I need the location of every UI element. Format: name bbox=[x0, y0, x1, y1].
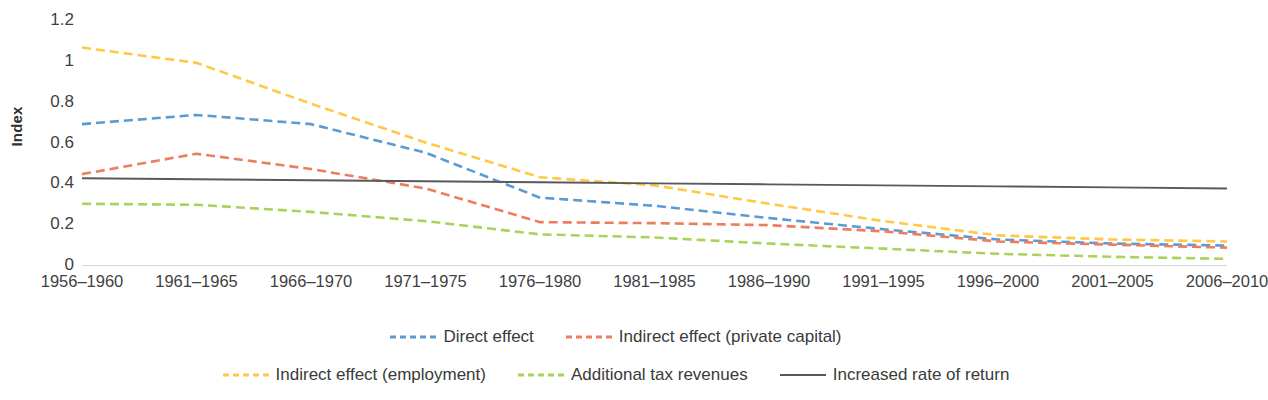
legend-swatch-icon bbox=[780, 369, 826, 381]
x-axis-line bbox=[82, 265, 1227, 266]
y-axis-tick: 0.8 bbox=[0, 92, 74, 112]
x-axis-tick: 2001–2005 bbox=[1071, 272, 1154, 291]
legend-label: Indirect effect (employment) bbox=[276, 365, 486, 385]
x-axis-tick-labels: 1956–19601961–19651966–19701971–19751976… bbox=[82, 272, 1227, 302]
x-axis-tick: 1986–1990 bbox=[728, 272, 811, 291]
y-axis-tick: 0.4 bbox=[0, 173, 74, 193]
x-axis-tick: 1971–1975 bbox=[384, 272, 467, 291]
x-axis-tick: 1966–1970 bbox=[270, 272, 353, 291]
plot-area bbox=[82, 20, 1227, 265]
legend-swatch-icon bbox=[390, 331, 436, 343]
legend-label: Indirect effect (private capital) bbox=[619, 327, 842, 347]
y-axis-tick: 1.2 bbox=[0, 10, 74, 30]
x-axis-tick: 1976–1980 bbox=[499, 272, 582, 291]
legend-item[interactable]: Direct effect bbox=[390, 327, 533, 347]
x-axis-tick: 1981–1985 bbox=[613, 272, 696, 291]
legend-label: Direct effect bbox=[443, 327, 533, 347]
y-axis-tick-labels: 1.210.80.60.40.20 bbox=[0, 0, 74, 280]
chart-legend: Direct effectIndirect effect (private ca… bbox=[0, 318, 1232, 394]
series-line bbox=[82, 178, 1227, 188]
legend-swatch-icon bbox=[223, 369, 269, 381]
x-axis-tick: 1961–1965 bbox=[155, 272, 238, 291]
legend-item[interactable]: Indirect effect (private capital) bbox=[566, 327, 842, 347]
legend-item[interactable]: Indirect effect (employment) bbox=[223, 365, 486, 385]
x-axis-tick: 1956–1960 bbox=[41, 272, 124, 291]
series-line bbox=[82, 204, 1227, 259]
legend-label: Increased rate of return bbox=[833, 365, 1010, 385]
y-axis-tick: 0.2 bbox=[0, 214, 74, 234]
legend-swatch-icon bbox=[518, 369, 564, 381]
legend-row-1: Direct effectIndirect effect (private ca… bbox=[0, 318, 1232, 356]
legend-swatch-icon bbox=[566, 331, 612, 343]
x-axis-tick: 1991–1995 bbox=[842, 272, 925, 291]
plot-svg bbox=[82, 20, 1227, 265]
legend-label: Additional tax revenues bbox=[571, 365, 748, 385]
x-axis-tick: 2006–2010 bbox=[1186, 272, 1268, 291]
x-axis-tick: 1996–2000 bbox=[957, 272, 1040, 291]
series-line bbox=[82, 48, 1227, 242]
y-axis-tick: 0.6 bbox=[0, 133, 74, 153]
legend-item[interactable]: Additional tax revenues bbox=[518, 365, 748, 385]
series-line bbox=[82, 154, 1227, 248]
legend-row-2: Indirect effect (employment)Additional t… bbox=[0, 356, 1232, 394]
y-axis-tick: 1 bbox=[0, 51, 74, 71]
legend-item[interactable]: Increased rate of return bbox=[780, 365, 1010, 385]
